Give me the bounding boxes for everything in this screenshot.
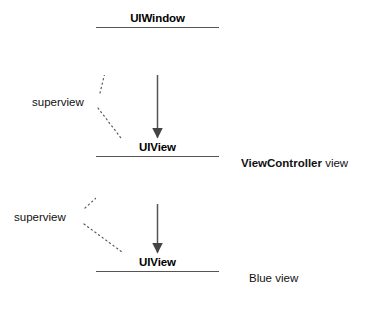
label-superview-text: superview <box>14 211 66 223</box>
uml-box-title: UIWindow <box>96 10 219 28</box>
uml-box-body <box>96 272 219 317</box>
uml-box-title: UIView <box>96 254 219 272</box>
annotation-viewcontroller-suffix: view <box>322 157 348 169</box>
uml-box-uiview-blue[interactable]: UIView <box>96 254 219 301</box>
label-superview-view: superview <box>14 211 66 223</box>
label-superview-window: superview <box>32 96 84 108</box>
annotation-blue-view: Blue view <box>249 272 298 284</box>
annotation-viewcontroller-view: ViewController view <box>241 157 348 169</box>
uml-box-body <box>96 28 219 75</box>
label-superview-text: superview <box>32 96 84 108</box>
uml-box-body <box>96 157 219 204</box>
leader-superview-1-to-uiview <box>98 108 121 138</box>
annotation-blue-view-text: Blue view <box>249 272 298 284</box>
uml-box-uiwindow[interactable]: UIWindow <box>96 10 219 57</box>
uml-box-title: UIView <box>96 139 219 157</box>
leader-superview-2-to-blueview <box>84 224 122 252</box>
uml-box-uiview-controller[interactable]: UIView <box>96 139 219 186</box>
annotation-viewcontroller-name: ViewController <box>241 157 322 169</box>
